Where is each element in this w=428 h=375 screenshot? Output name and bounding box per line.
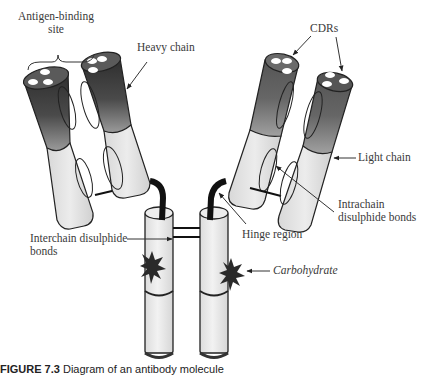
hinge-region-label: Hinge region [242,228,302,241]
interchain-line1: Interchain disulphide [30,232,127,245]
antigen-binding-site-line1: Antigen-binding [16,10,96,23]
right-fab-arm [229,51,355,232]
figure-label: FIGURE 7.3 [0,363,60,375]
carbohydrate-label: Carbohydrate [273,264,338,277]
antigen-binding-site-label: Antigen-binding site [16,10,96,36]
interchain-line2: bonds [30,245,127,258]
cdrs-label: CDRs [310,22,338,35]
left-heavy-chain [77,49,150,198]
fc-region [145,207,228,358]
intrachain-line2: disulphide bonds [338,211,416,224]
light-chain-label: Light chain [358,151,411,164]
left-fab-arm [21,49,150,229]
left-heavy-chain-fc [145,207,173,358]
intrachain-disulphide-bonds-label: Intrachain disulphide bonds [338,198,416,224]
intrachain-line1: Intrachain [338,198,416,211]
interchain-disulphide-bonds-label: Interchain disulphide bonds [30,232,127,258]
interchain-disulphide-bonds [173,228,200,237]
figure-caption-text: Diagram of an antibody molecule [63,363,224,375]
heavy-chain-label: Heavy chain [137,41,195,54]
figure-caption: FIGURE 7.3 Diagram of an antibody molecu… [0,363,224,375]
antigen-binding-site-line2: site [16,23,96,36]
